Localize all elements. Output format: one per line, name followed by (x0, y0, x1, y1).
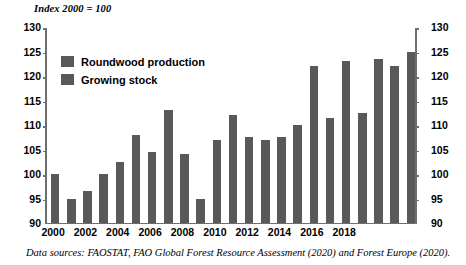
y-axis-tick-label-right: 90 (431, 218, 443, 229)
x-axis-tick-label: 2008 (166, 226, 198, 238)
y-axis-tick-label-left: 100 (5, 169, 41, 180)
bar (164, 110, 173, 223)
y-axis-tick-label-left: 90 (5, 218, 41, 229)
x-axis-tick-label: 2004 (102, 226, 134, 238)
legend-item: Roundwood production (61, 54, 205, 69)
y-axis-tick-label-left: 115 (5, 96, 41, 107)
legend-item: Growing stock (61, 72, 205, 87)
x-axis: 2000200220042006200820102012201420162018 (45, 226, 417, 242)
y-axis-tick-label-left: 105 (5, 145, 41, 156)
y-axis-tick-label-right: 110 (431, 120, 448, 131)
y-axis-tick-label-left: 110 (5, 120, 41, 131)
y-axis-tickmark (43, 28, 47, 30)
y-axis-right: 9095100105110115120125130 (422, 28, 466, 224)
y-axis-tickmark (415, 151, 419, 153)
bar (407, 52, 416, 224)
bar (67, 199, 76, 224)
y-axis-tickmark (415, 175, 419, 177)
y-axis-left: 9095100105110115120125130 (0, 28, 41, 224)
y-axis-tickmark (415, 102, 419, 104)
y-axis-tickmark (415, 200, 419, 202)
bar (196, 199, 205, 224)
legend-swatch-icon (61, 74, 74, 85)
bar (132, 135, 141, 223)
y-axis-tick-label-right: 120 (431, 71, 449, 82)
bar (310, 66, 319, 223)
chart-title: Index 2000 = 100 (34, 3, 111, 14)
bar (51, 174, 60, 223)
figure-caption: Data sources: FAOSTAT, FAO Global Forest… (26, 247, 450, 258)
y-axis-tickmark (43, 151, 47, 153)
bar (245, 137, 254, 223)
y-axis-tick-label-right: 105 (431, 145, 449, 156)
chart-legend: Roundwood productionGrowing stock (61, 54, 205, 90)
bar (390, 66, 399, 223)
y-axis-tick-label-right: 125 (431, 47, 449, 58)
y-axis-tick-label-left: 130 (5, 22, 41, 33)
y-axis-tick-label-right: 100 (431, 169, 449, 180)
x-axis-tick-label: 2010 (199, 226, 231, 238)
x-axis-tick-label: 2006 (134, 226, 166, 238)
legend-label: Growing stock (81, 74, 157, 86)
bar (229, 115, 238, 223)
chart-figure: Index 2000 = 100 90951001051101151201251… (0, 0, 466, 265)
legend-swatch-icon (61, 56, 74, 67)
legend-label: Roundwood production (81, 56, 205, 68)
y-axis-tick-label-left: 125 (5, 47, 41, 58)
y-axis-tickmark (415, 77, 419, 79)
y-axis-tick-label-right: 115 (431, 96, 448, 107)
y-axis-tickmark (43, 53, 47, 55)
x-axis-tick-label: 2002 (69, 226, 101, 238)
bar (180, 154, 189, 223)
y-axis-tick-label-left: 95 (5, 194, 41, 205)
bar (83, 191, 92, 223)
bar (213, 140, 222, 223)
y-axis-tick-label-left: 120 (5, 71, 41, 82)
bar (277, 137, 286, 223)
bar (326, 118, 335, 223)
bar (358, 113, 367, 223)
x-axis-tick-label: 2018 (328, 226, 360, 238)
x-axis-tick-label: 2012 (231, 226, 263, 238)
y-axis-tick-label-right: 130 (431, 22, 449, 33)
y-axis-tickmark (415, 28, 419, 30)
bar (99, 174, 108, 223)
bar (293, 125, 302, 223)
x-axis-tick-label: 2000 (37, 226, 69, 238)
y-axis-tickmark (43, 77, 47, 79)
bar (116, 162, 125, 223)
bar (148, 152, 157, 223)
bar (342, 61, 351, 223)
y-axis-tickmark (43, 102, 47, 104)
y-axis-tickmark (43, 126, 47, 128)
bar (374, 59, 383, 223)
y-axis-tick-label-right: 95 (431, 194, 443, 205)
y-axis-tickmark (415, 126, 419, 128)
bar (261, 140, 270, 223)
y-axis-tickmark (415, 53, 419, 55)
x-axis-tick-label: 2016 (296, 226, 328, 238)
y-axis-tickmark (43, 200, 47, 202)
y-axis-tickmark (43, 175, 47, 177)
x-axis-tick-label: 2014 (264, 226, 296, 238)
